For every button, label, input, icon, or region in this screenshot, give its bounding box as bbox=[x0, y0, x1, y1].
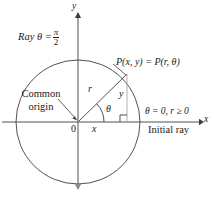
y-axis-label: y bbox=[72, 2, 76, 12]
theta-arc bbox=[97, 104, 104, 122]
y-axis-arrowhead bbox=[75, 12, 81, 18]
common-origin-leader-arrowhead bbox=[72, 116, 77, 120]
fraction-numerator: π bbox=[53, 28, 60, 38]
point-p-label: P(x, y) = P(r, θ) bbox=[116, 57, 180, 68]
ray-theta-half-pi-label: Ray θ =π2 bbox=[18, 28, 59, 47]
initial-ray-label: Initial ray bbox=[148, 124, 189, 135]
common-origin-label: Common origin bbox=[14, 87, 68, 113]
radius-r-label: r bbox=[88, 84, 92, 95]
x-segment-label: x bbox=[92, 124, 96, 135]
origin-zero-label: 0 bbox=[71, 124, 76, 135]
y-segment-label: y bbox=[119, 89, 123, 100]
ray-theta-prefix-text: Ray θ = bbox=[18, 31, 52, 42]
half-pi-fraction: π2 bbox=[53, 28, 60, 47]
right-angle-marker bbox=[120, 115, 127, 122]
theta-zero-condition-label: θ = 0, r ≥ 0 bbox=[145, 107, 189, 117]
fraction-denominator: 2 bbox=[53, 38, 60, 47]
common-origin-line-2: origin bbox=[28, 101, 53, 112]
y-axis-lower-arrowhead bbox=[75, 184, 81, 190]
x-axis-label: x bbox=[204, 115, 208, 125]
polar-coordinates-figure: Ray θ =π2 y x P(x, y) = P(r, θ) Common o… bbox=[0, 0, 214, 200]
angle-theta-label: θ bbox=[106, 104, 111, 115]
common-origin-line-1: Common bbox=[21, 88, 60, 99]
